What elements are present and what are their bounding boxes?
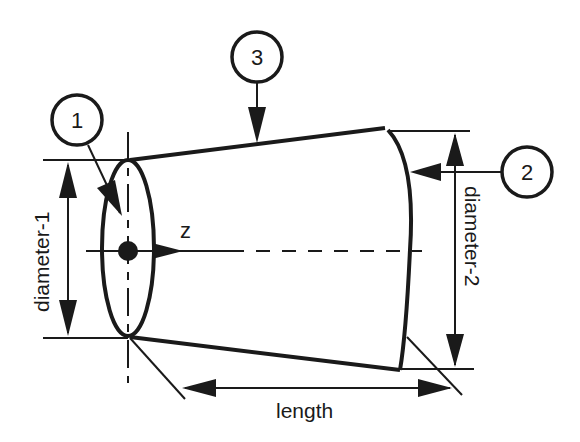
- length-extension-left: [130, 338, 185, 399]
- origin-dot-icon: [118, 241, 138, 261]
- diameter2-arrowhead-up-icon: [446, 133, 464, 166]
- callout-2-number: 2: [521, 160, 533, 185]
- callout-3-number: 3: [251, 45, 263, 70]
- diameter1-label: diameter-1: [30, 212, 53, 312]
- diameter2-arrowhead-down-icon: [446, 334, 464, 367]
- length-label: length: [276, 399, 333, 422]
- callout-3-arrowhead-icon: [248, 107, 266, 143]
- diameter1-arrowhead-down-icon: [59, 300, 77, 336]
- side-line-bottom: [130, 337, 400, 370]
- length-arrowhead-right-icon: [418, 379, 452, 397]
- z-axis-arrowhead-icon: [152, 243, 183, 259]
- z-axis-label: z: [180, 218, 191, 243]
- callout-1-number: 1: [71, 108, 83, 133]
- callout-1-arrowhead-icon: [97, 180, 122, 216]
- length-arrowhead-left-icon: [182, 379, 216, 397]
- callout-2-arrowhead-icon: [410, 163, 441, 181]
- diameter2-label: diameter-2: [461, 186, 484, 286]
- cone-diagram: z diameter-1 diameter-2 length 1 3 2: [0, 0, 580, 442]
- diameter1-arrowhead-up-icon: [59, 162, 77, 198]
